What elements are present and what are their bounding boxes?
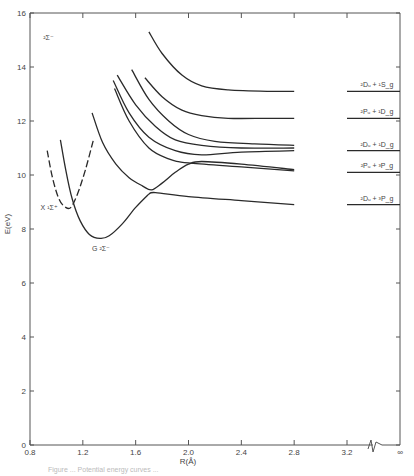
y-tick-label: 4 bbox=[22, 333, 27, 342]
asymptote-label: ²Dᵤ + ¹D_g bbox=[360, 141, 393, 149]
x-tick-label: 2.0 bbox=[183, 448, 195, 457]
x-tick-label: 2.4 bbox=[236, 448, 248, 457]
curve-group bbox=[47, 32, 294, 239]
potential-curve bbox=[149, 32, 294, 91]
asymptote-label: ²Dᵤ + ³P_g bbox=[361, 195, 394, 203]
asymptote-label: ²Dᵤ + ¹S_g bbox=[361, 81, 394, 89]
y-tick-label: 0 bbox=[22, 441, 27, 450]
potential-curve bbox=[132, 70, 295, 146]
asymptote-group: ²Dᵤ + ¹S_g²Pᵤ + ¹D_g²Dᵤ + ¹D_g²Pᵤ + ³P_g… bbox=[347, 81, 400, 204]
plot-frame bbox=[30, 13, 400, 452]
y-tick-label: 16 bbox=[17, 9, 26, 18]
potential-curve bbox=[117, 75, 294, 148]
potential-curve bbox=[149, 193, 294, 205]
potential-curve bbox=[145, 78, 294, 119]
potential-curve bbox=[60, 140, 148, 239]
y-tick-label: 2 bbox=[22, 387, 27, 396]
y-axis-label: E(eV) bbox=[3, 213, 12, 234]
y-axis-ticks: 0246810121416 bbox=[17, 9, 400, 450]
x-tick-label: 1.2 bbox=[77, 448, 89, 457]
state-label: X ¹Σ⁺ bbox=[41, 204, 58, 211]
y-tick-label: 8 bbox=[22, 225, 27, 234]
annotation-group: ²Σ⁻X ¹Σ⁺G ²Σ⁻ bbox=[41, 34, 111, 252]
x-tick-label: 2.8 bbox=[289, 448, 301, 457]
figure-caption: Figure ... Potential energy curves ... bbox=[48, 466, 159, 473]
y-tick-label: 14 bbox=[17, 63, 26, 72]
y-tick-label: 10 bbox=[17, 171, 26, 180]
potential-curve bbox=[47, 140, 93, 209]
potential-energy-chart: 0.81.21.62.02.42.83.2 0246810121416 ²Dᵤ … bbox=[0, 0, 414, 476]
asymptote-label: ²Pᵤ + ³P_g bbox=[361, 162, 394, 170]
x-axis-label: R(Å) bbox=[180, 457, 197, 466]
axis-break-mark bbox=[368, 440, 382, 452]
infinity-label: ∞ bbox=[397, 448, 403, 457]
x-tick-label: 3.2 bbox=[341, 448, 353, 457]
x-tick-label: 0.8 bbox=[24, 448, 36, 457]
state-label: G ²Σ⁻ bbox=[92, 245, 110, 252]
y-tick-label: 6 bbox=[22, 279, 27, 288]
state-label: ²Σ⁻ bbox=[43, 34, 54, 41]
asymptote-label: ²Pᵤ + ¹D_g bbox=[361, 108, 394, 116]
y-tick-label: 12 bbox=[17, 117, 26, 126]
x-tick-label: 1.6 bbox=[130, 448, 142, 457]
